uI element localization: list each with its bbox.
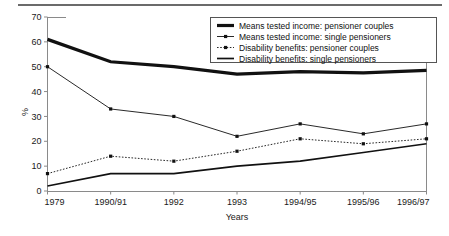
y-tick-label: 40: [31, 87, 41, 97]
x-tick-label: 1994/95: [284, 197, 317, 207]
legend-label: Disability benefits: pensioner couples: [239, 43, 379, 53]
x-tick-label: 1996/97: [397, 197, 430, 207]
x-tick-label: 1979: [45, 197, 65, 207]
chart-svg: 010203040506070 19791990/91199219931994/…: [0, 0, 449, 236]
legend-swatch-marker: [224, 46, 227, 49]
x-tick-label: 1993: [227, 197, 247, 207]
chart-legend: Means tested income: pensioner couplesMe…: [211, 18, 437, 64]
series-marker-2: [362, 142, 365, 145]
x-tick-label: 1992: [164, 197, 184, 207]
y-tick-label: 60: [31, 37, 41, 47]
series-marker-2: [299, 137, 302, 140]
legend-label: Means tested income: pensioner couples: [239, 21, 394, 31]
y-tick-label: 10: [31, 161, 41, 171]
legend-item[interactable]: Disability benefits: single pensioners: [217, 54, 376, 64]
y-tick-label: 30: [31, 112, 41, 122]
legend-item[interactable]: Means tested income: pensioner couples: [217, 21, 394, 31]
y-axis-title: %: [20, 108, 30, 116]
line-chart: 010203040506070 19791990/91199219931994/…: [0, 0, 449, 236]
legend-entries: Means tested income: pensioner couplesMe…: [217, 21, 394, 64]
y-tick-label: 0: [36, 186, 41, 196]
y-axis-tick-labels: 010203040506070: [31, 12, 41, 196]
series-marker-2: [235, 150, 238, 153]
series-marker-1: [235, 135, 238, 138]
series-marker-1: [362, 132, 365, 135]
y-tick-label: 70: [31, 12, 41, 22]
y-tick-label: 50: [31, 62, 41, 72]
y-tick-label: 20: [31, 136, 41, 146]
x-tick-label: 1995/96: [347, 197, 380, 207]
series-marker-2: [172, 160, 175, 163]
legend-item[interactable]: Disability benefits: pensioner couples: [217, 43, 379, 53]
series-marker-1: [172, 115, 175, 118]
series-line-2: [48, 139, 427, 174]
series-marker-1: [109, 107, 112, 110]
series-marker-1: [425, 122, 428, 125]
series-marker-2: [425, 137, 428, 140]
legend-item[interactable]: Means tested income: single pensioners: [217, 32, 391, 42]
series-marker-2: [109, 155, 112, 158]
x-tick-label: 1990/91: [94, 197, 127, 207]
x-axis-tick-labels: 19791990/91199219931994/951995/961996/97: [45, 197, 430, 207]
page-canvas: 010203040506070 19791990/91199219931994/…: [0, 0, 449, 236]
series-line-1: [48, 67, 427, 137]
legend-label: Disability benefits: single pensioners: [239, 54, 376, 64]
legend-label: Means tested income: single pensioners: [239, 32, 391, 42]
series-marker-2: [46, 172, 49, 175]
series-marker-1: [46, 65, 49, 68]
series-marker-1: [299, 122, 302, 125]
x-axis-title: Years: [226, 212, 249, 222]
y-axis-ticks: [44, 17, 48, 191]
legend-swatch-marker: [224, 35, 227, 38]
